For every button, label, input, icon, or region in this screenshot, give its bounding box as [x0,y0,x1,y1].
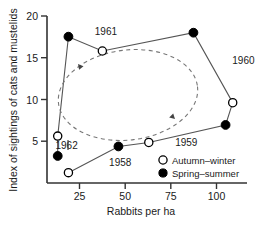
data-point-open-circle [229,99,237,107]
y-axis-ticks [41,16,47,141]
x-tick-label-25: 25 [74,190,86,202]
x-axis-ticks [80,183,217,189]
y-tick-label-10: 10 [26,94,38,106]
trajectory-path [58,33,233,173]
annotation-1961: 1961 [95,26,118,37]
scatter-plot: 20 15 10 5 25 50 75 100 Rabbits per ha I… [0,0,260,225]
dashed-ellipse [53,42,203,148]
cycle-arrow-lower-right [169,113,175,119]
annotation-1962: 1962 [56,140,79,151]
legend-marker-autumn-winter [159,156,167,164]
y-axis-title: Index of sightings of cats and mustelids [7,8,19,191]
x-tick-label-75: 75 [165,190,177,202]
y-tick-label-15: 15 [26,52,38,64]
legend-label-autumn-winter: Autumn–winter [172,155,235,166]
x-tick-label-100: 100 [208,190,226,202]
x-tick-label-50: 50 [119,190,131,202]
data-point-open-circle [145,138,153,146]
year-annotations: 19611960195919581962 [56,26,255,168]
legend-label-spring-summer: Spring–summer [172,168,239,179]
data-point-filled-circle [114,142,123,151]
x-axis-tick-labels: 25 50 75 100 [74,190,226,202]
cycle-arrow-upper-left [78,64,84,70]
data-point-filled-circle [189,28,198,37]
y-tick-label-5: 5 [32,135,38,147]
chart-legend: Autumn–winterSpring–summer [159,155,239,179]
data-point-filled-circle [221,121,230,130]
legend-marker-spring-summer [159,169,167,177]
data-point-filled-circle [53,152,62,161]
y-axis-tick-labels: 20 15 10 5 [26,10,38,147]
cycle-indicator [53,42,203,148]
annotation-1960: 1960 [232,55,255,66]
x-axis-title: Rabbits per ha [107,205,175,217]
data-point-open-circle [64,169,72,177]
data-point-open-circle [98,47,106,55]
annotation-1958: 1958 [109,157,132,168]
y-tick-label-20: 20 [26,10,38,22]
data-point-filled-circle [64,32,73,41]
annotation-1959: 1959 [175,137,198,148]
chart-figure: 20 15 10 5 25 50 75 100 Rabbits per ha I… [0,0,260,225]
